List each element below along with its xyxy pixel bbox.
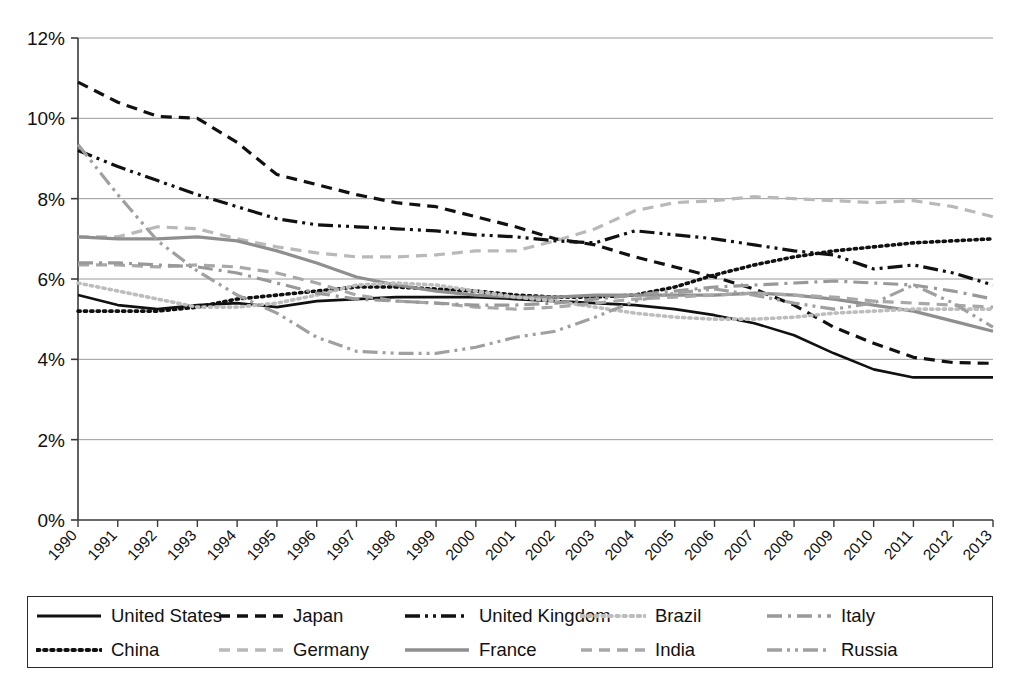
legend-item-brazil[interactable]: Brazil: [580, 605, 766, 627]
x-tick-label: 1991: [84, 526, 120, 563]
line-dashed-gray-icon: [580, 643, 646, 657]
line-dashdotdot-black-icon: [404, 609, 470, 623]
y-tick-label: 10%: [27, 108, 65, 129]
line-chart-svg: 0%2%4%6%8%10%12% 19901991199219931994199…: [0, 0, 1025, 600]
x-axis-tick-labels: 1990199119921993199419951996199719981999…: [44, 526, 995, 563]
y-tick-label: 6%: [38, 269, 66, 290]
chart-legend: United StatesJapanUnited KingdomBrazilIt…: [27, 596, 993, 668]
x-tick-label: 2007: [721, 526, 757, 563]
x-tick-label: 1995: [243, 526, 279, 563]
legend-label: China: [111, 639, 159, 661]
legend-label: Japan: [293, 605, 343, 627]
line-dotted-gray-icon: [580, 609, 646, 623]
x-tick-label: 2013: [959, 526, 995, 563]
series-line-france: [78, 237, 993, 331]
y-axis-tick-labels: 0%2%4%6%8%10%12%: [27, 28, 65, 531]
legend-item-russia[interactable]: Russia: [766, 639, 972, 661]
x-tick-label: 1992: [124, 526, 160, 563]
x-tick-label: 1999: [402, 526, 438, 563]
x-tick-label: 1997: [323, 526, 359, 563]
legend-label: United States: [111, 605, 222, 627]
legend-label: India: [655, 639, 695, 661]
legend-item-india[interactable]: India: [580, 639, 766, 661]
legend-item-united-kingdom[interactable]: United Kingdom: [404, 605, 580, 627]
y-tick-label: 12%: [27, 28, 65, 49]
line-solid-gray-icon: [404, 643, 470, 657]
x-tick-label: 2001: [482, 526, 518, 563]
x-tick-label: 2004: [601, 526, 637, 563]
x-tick-label: 1996: [283, 526, 319, 563]
x-tick-label: 2003: [561, 526, 597, 563]
legend-label: Germany: [293, 639, 369, 661]
legend-item-germany[interactable]: Germany: [218, 639, 404, 661]
line-dashed-lightgray-icon: [218, 643, 284, 657]
x-tick-label: 1993: [164, 526, 200, 563]
x-tick-label: 2011: [880, 526, 915, 562]
x-tick-label: 2006: [681, 526, 717, 563]
x-tick-label: 2012: [919, 526, 955, 563]
x-tick-label: 1994: [203, 526, 239, 563]
legend-item-china[interactable]: China: [36, 639, 218, 661]
line-dotted-black-icon: [36, 643, 102, 657]
line-dashed-black-icon: [218, 609, 284, 623]
legend-item-united-states[interactable]: United States: [36, 605, 218, 627]
legend-item-france[interactable]: France: [404, 639, 580, 661]
data-series-layer: [78, 82, 993, 377]
x-tick-label: 2009: [800, 526, 836, 563]
series-line-japan: [78, 82, 993, 363]
x-tick-label: 1998: [363, 526, 399, 563]
x-tick-label: 1990: [44, 526, 80, 563]
chart-container: 0%2%4%6%8%10%12% 19901991199219931994199…: [0, 0, 1025, 696]
x-tick-label: 2002: [522, 526, 558, 563]
x-tick-label: 2010: [840, 526, 876, 563]
plot-area: 0%2%4%6%8%10%12% 19901991199219931994199…: [0, 0, 1025, 600]
legend-item-italy[interactable]: Italy: [766, 605, 972, 627]
legend-label: Italy: [841, 605, 875, 627]
series-line-united-kingdom: [78, 150, 993, 285]
legend-grid: United StatesJapanUnited KingdomBrazilIt…: [28, 597, 992, 667]
legend-item-japan[interactable]: Japan: [218, 605, 404, 627]
line-dashdot-gray-icon: [766, 609, 832, 623]
legend-label: Brazil: [655, 605, 701, 627]
y-tick-label: 8%: [38, 189, 66, 210]
grid-lines: [78, 38, 993, 520]
line-solid-black-icon: [36, 609, 102, 623]
x-tick-label: 2005: [641, 526, 677, 563]
line-dashdotdot-gray-icon: [766, 643, 832, 657]
x-tick-label: 2000: [442, 526, 478, 563]
legend-label: Russia: [841, 639, 898, 661]
y-tick-label: 0%: [38, 510, 66, 531]
x-tick-label: 2008: [760, 526, 796, 563]
y-tick-label: 4%: [38, 349, 66, 370]
y-tick-label: 2%: [38, 430, 66, 451]
legend-label: France: [479, 639, 537, 661]
